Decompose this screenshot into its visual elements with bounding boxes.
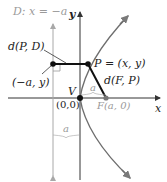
point-P: [85, 61, 91, 67]
leader-neg-a-y: [42, 65, 52, 74]
dist-FP-label: d(F, P): [104, 75, 140, 86]
origin-label: (0,0): [56, 100, 80, 110]
leader-dPD: [44, 50, 66, 63]
parabola-diagram: D: x = −a y x d(P, D) P = (x, y) d(F, P)…: [0, 0, 167, 182]
a-label-bottom: a: [63, 124, 69, 134]
vertex-label: V: [68, 86, 76, 97]
a-label-top: a: [90, 83, 96, 93]
focus-label: F(a, 0): [97, 101, 130, 111]
diagram-graphics: [0, 0, 167, 182]
x-axis-label: x: [155, 103, 161, 114]
point-neg-a-y-label: (−a, y): [12, 77, 50, 88]
point-P-label: P = (x, y): [94, 58, 146, 69]
y-axis-label: y: [69, 9, 75, 20]
directrix-label: D: x = −a: [13, 6, 67, 17]
dist-PD-label: d(P, D): [8, 41, 45, 52]
a-brace-bottom: [53, 135, 79, 138]
point-neg-a-y: [50, 61, 56, 67]
